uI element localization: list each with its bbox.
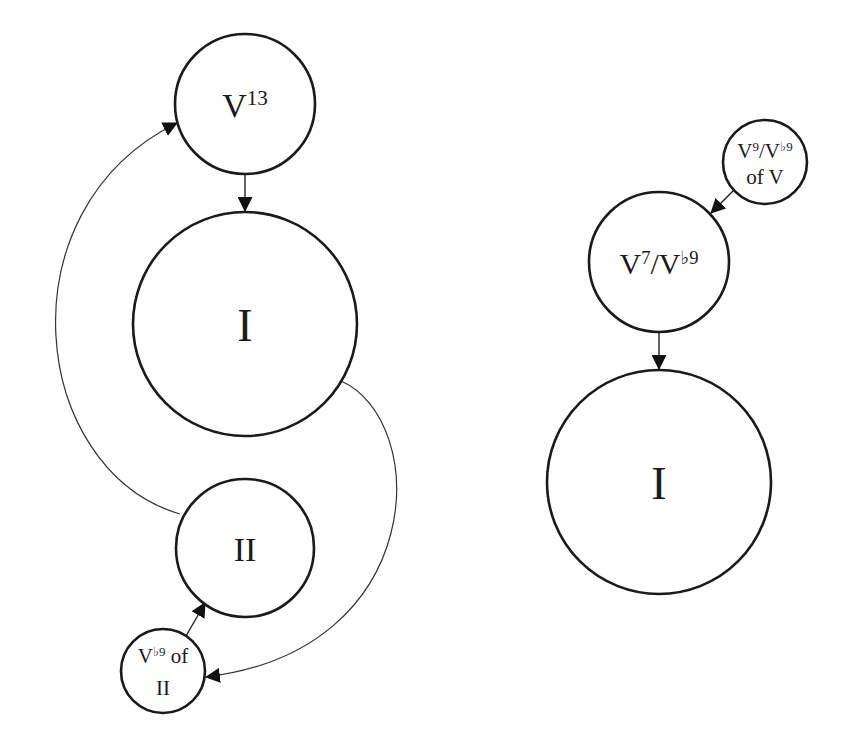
label-tonic-right-text: I: [651, 458, 666, 509]
label-tonic-left-text: I: [237, 300, 252, 351]
label-sd-line2: II: [156, 676, 170, 700]
label-tonic-right: I: [651, 461, 666, 507]
label-dom-sup2: ♭9: [680, 247, 698, 268]
label-applied-dominant-line2: of V: [737, 164, 792, 190]
label-sd-after: of: [166, 644, 189, 668]
label-ad-base2: V: [765, 139, 780, 163]
label-ad-sup2: ♭9: [780, 139, 793, 154]
label-applied-dominant-line1: V9/V♭9: [737, 138, 792, 164]
label-v13-sup: 13: [247, 86, 268, 110]
edge-secondary-dominant-to-supertonic: [186, 603, 205, 636]
label-supertonic-text: II: [234, 531, 257, 568]
label-supertonic: II: [234, 533, 257, 567]
label-dom-base2: V: [659, 247, 681, 280]
label-secondary-dominant-line2: II: [138, 675, 189, 701]
label-ad-base1: V: [737, 139, 752, 163]
label-v13-base: V: [222, 87, 247, 124]
label-dom-sup1: 7: [641, 247, 650, 268]
label-tonic-left: I: [237, 303, 252, 349]
label-secondary-dominant-line1: V♭9 of: [138, 643, 189, 669]
label-sd-sup: ♭9: [153, 644, 166, 659]
label-ad-sup1: 9: [752, 139, 759, 154]
label-dominant: V7/V♭9: [619, 249, 698, 279]
harmony-diagram: [0, 0, 844, 748]
label-secondary-dominant-of-ii: V♭9 of II: [138, 643, 189, 702]
edge-applied-dominant-to-dominant: [711, 190, 734, 213]
label-v13: V13: [222, 89, 268, 123]
label-applied-dominant-of-v: V9/V♭9 of V: [737, 138, 792, 191]
label-dom-base1: V: [619, 247, 641, 280]
label-ad-line2: of V: [746, 165, 784, 189]
label-sd-base: V: [138, 644, 153, 668]
